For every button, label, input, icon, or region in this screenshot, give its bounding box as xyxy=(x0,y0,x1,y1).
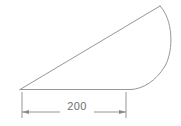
arrowhead-left-icon xyxy=(22,110,29,114)
drawing-svg: 200 xyxy=(0,0,181,126)
arc-curve xyxy=(131,6,171,90)
segment-outline xyxy=(20,6,171,90)
arrowhead-right-icon xyxy=(119,110,126,114)
dimension-label: 200 xyxy=(67,100,87,112)
technical-drawing-canvas: 200 xyxy=(0,0,181,126)
dimension-annotation: 200 xyxy=(22,92,126,118)
chord-line xyxy=(20,6,160,90)
